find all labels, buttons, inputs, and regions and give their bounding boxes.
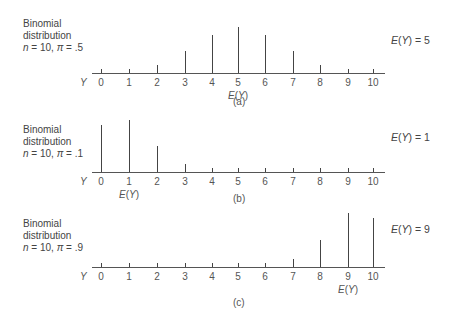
tick-label: 7 bbox=[283, 77, 303, 88]
label-line: distribution bbox=[23, 136, 83, 148]
tick-label: 9 bbox=[338, 77, 358, 88]
probability-bar bbox=[157, 146, 158, 172]
tick-label: 3 bbox=[175, 271, 195, 282]
label-line: Binomial bbox=[23, 124, 83, 136]
label-line: distribution bbox=[23, 230, 83, 242]
tick-label: 6 bbox=[255, 176, 275, 187]
label-line: distribution bbox=[23, 30, 83, 42]
probability-bar bbox=[373, 168, 374, 172]
probability-bar bbox=[129, 69, 130, 73]
distribution-label: Binomialdistributionn = 10, π = .1 bbox=[23, 124, 83, 160]
tick-label: 7 bbox=[283, 271, 303, 282]
probability-bar bbox=[320, 65, 321, 73]
tick-label: 10 bbox=[363, 77, 383, 88]
probability-bar bbox=[185, 164, 186, 172]
probability-bar bbox=[212, 168, 213, 172]
probability-bar bbox=[293, 259, 294, 267]
probability-bar bbox=[238, 27, 239, 73]
distribution-label: Binomialdistributionn = 10, π = .9 bbox=[23, 218, 83, 254]
probability-bar bbox=[101, 125, 102, 172]
expected-value-label: E(Y) = 1 bbox=[391, 131, 430, 143]
probability-bar bbox=[185, 263, 186, 267]
tick-label: 5 bbox=[228, 77, 248, 88]
tick-label: 0 bbox=[91, 271, 111, 282]
tick-label: 0 bbox=[91, 77, 111, 88]
x-axis-variable-label: Y bbox=[80, 271, 87, 282]
probability-bar bbox=[320, 168, 321, 172]
label-line: Binomial bbox=[23, 218, 83, 230]
panel-caption: (b) bbox=[233, 193, 245, 204]
tick-label: 3 bbox=[175, 176, 195, 187]
probability-bar bbox=[185, 51, 186, 73]
probability-bar bbox=[320, 240, 321, 267]
probability-bar bbox=[293, 51, 294, 73]
tick-label: 9 bbox=[338, 271, 358, 282]
probability-bar bbox=[101, 263, 102, 267]
probability-bar bbox=[373, 69, 374, 73]
probability-bar bbox=[265, 263, 266, 267]
distribution-label: Binomialdistributionn = 10, π = .5 bbox=[23, 18, 83, 54]
label-line: n = 10, π = .5 bbox=[23, 42, 83, 54]
probability-bar bbox=[129, 263, 130, 267]
tick-label: 8 bbox=[310, 77, 330, 88]
tick-label: 8 bbox=[310, 271, 330, 282]
tick-label: 4 bbox=[202, 77, 222, 88]
tick-label: 2 bbox=[147, 271, 167, 282]
panel-caption: (a) bbox=[233, 96, 245, 107]
expected-value-marker: E(Y) bbox=[109, 189, 149, 200]
tick-label: 10 bbox=[363, 271, 383, 282]
tick-label: 7 bbox=[283, 176, 303, 187]
tick-label: 5 bbox=[228, 271, 248, 282]
tick-label: 2 bbox=[147, 77, 167, 88]
tick-label: 1 bbox=[119, 77, 139, 88]
tick-label: 3 bbox=[175, 77, 195, 88]
tick-label: 1 bbox=[119, 176, 139, 187]
label-line: n = 10, π = .9 bbox=[23, 242, 83, 254]
x-axis-variable-label: Y bbox=[80, 176, 87, 187]
x-axis bbox=[92, 267, 385, 268]
expected-value-label: E(Y) = 9 bbox=[391, 223, 430, 235]
tick-label: 4 bbox=[202, 271, 222, 282]
tick-label: 1 bbox=[119, 271, 139, 282]
x-axis-variable-label: Y bbox=[80, 77, 87, 88]
expected-value-marker: E(Y) bbox=[328, 284, 368, 295]
label-line: n = 10, π = .1 bbox=[23, 148, 83, 160]
probability-bar bbox=[265, 35, 266, 73]
probability-bar bbox=[348, 213, 349, 267]
tick-label: 0 bbox=[91, 176, 111, 187]
panel-caption: (c) bbox=[233, 297, 245, 308]
tick-label: 6 bbox=[255, 77, 275, 88]
probability-bar bbox=[157, 65, 158, 73]
tick-label: 10 bbox=[363, 176, 383, 187]
probability-bar bbox=[238, 263, 239, 267]
label-line: Binomial bbox=[23, 18, 83, 30]
probability-bar bbox=[212, 35, 213, 73]
probability-bar bbox=[348, 69, 349, 73]
probability-bar bbox=[373, 218, 374, 267]
probability-bar bbox=[157, 263, 158, 267]
tick-label: 6 bbox=[255, 271, 275, 282]
tick-label: 2 bbox=[147, 176, 167, 187]
tick-label: 9 bbox=[338, 176, 358, 187]
tick-label: 8 bbox=[310, 176, 330, 187]
probability-bar bbox=[238, 168, 239, 172]
probability-bar bbox=[293, 168, 294, 172]
expected-value-label: E(Y) = 5 bbox=[391, 34, 430, 46]
probability-bar bbox=[265, 168, 266, 172]
x-axis bbox=[92, 172, 385, 173]
x-axis bbox=[92, 73, 385, 74]
probability-bar bbox=[101, 69, 102, 73]
probability-bar bbox=[212, 263, 213, 267]
tick-label: 5 bbox=[228, 176, 248, 187]
probability-bar bbox=[129, 120, 130, 172]
tick-label: 4 bbox=[202, 176, 222, 187]
probability-bar bbox=[348, 168, 349, 172]
